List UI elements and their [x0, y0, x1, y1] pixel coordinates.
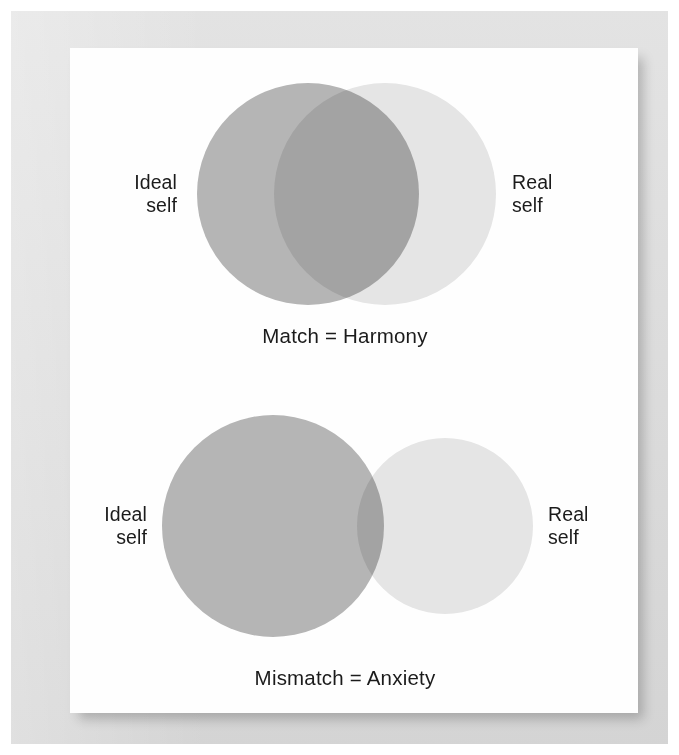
- diagram-page: Ideal self Real self Match = Harmony Ide…: [0, 0, 679, 755]
- label-real-self-mismatch: Real self: [548, 503, 668, 549]
- caption-mismatch-anxiety: Mismatch = Anxiety: [145, 666, 545, 690]
- venn-circle-ideal-self-mismatch: [162, 415, 384, 637]
- venn-circle-real-self-mismatch: [357, 438, 533, 614]
- venn-figure-mismatch: Ideal self Real self Mismatch = Anxiety: [0, 0, 679, 755]
- label-ideal-self-mismatch: Ideal self: [0, 503, 147, 549]
